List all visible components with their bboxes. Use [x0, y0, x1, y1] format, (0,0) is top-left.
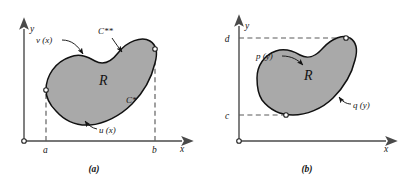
- x-axis-label-b: x: [383, 144, 389, 154]
- x-axis-label-a: x: [179, 144, 185, 154]
- region-label-b: R: [303, 68, 313, 83]
- panel-caption-a: (a): [88, 164, 99, 175]
- annotation-label-py: p (y): [255, 51, 273, 61]
- annotation-label-cstar: C*: [126, 95, 137, 105]
- figure-root: y x a b R v (x) C** C* u: [0, 0, 412, 180]
- origin-marker-b: [237, 139, 242, 144]
- y-tick-label-c: c: [225, 111, 230, 121]
- figure-panel-b: y x d c R p (y) q (y) (b): [206, 0, 412, 180]
- figure-panel-a: y x a b R v (x) C** C* u: [0, 0, 206, 180]
- annotation-label-cstarstar: C**: [98, 26, 114, 36]
- leader-qy-b: [339, 97, 351, 104]
- annotation-label-ux: u (x): [99, 125, 116, 135]
- tangent-marker-left-a: [44, 88, 49, 93]
- y-tick-label-d: d: [225, 34, 230, 44]
- leader-cstarstar-a: [112, 38, 122, 52]
- tangent-marker-bottom-b: [284, 113, 289, 118]
- panel-caption-b: (b): [301, 164, 312, 175]
- origin-marker-a: [22, 139, 27, 144]
- leader-vx-a: [62, 40, 83, 54]
- region-label-a: R: [98, 73, 108, 88]
- x-tick-label-b: b: [152, 145, 157, 155]
- annotation-label-qy: q (y): [353, 100, 370, 110]
- tangent-marker-top-b: [344, 36, 349, 41]
- y-axis-label-a: y: [29, 24, 35, 34]
- tangent-marker-right-a: [153, 47, 158, 52]
- y-axis-label-b: y: [244, 21, 250, 31]
- x-tick-label-a: a: [43, 145, 48, 155]
- annotation-label-vx: v (x): [36, 35, 52, 45]
